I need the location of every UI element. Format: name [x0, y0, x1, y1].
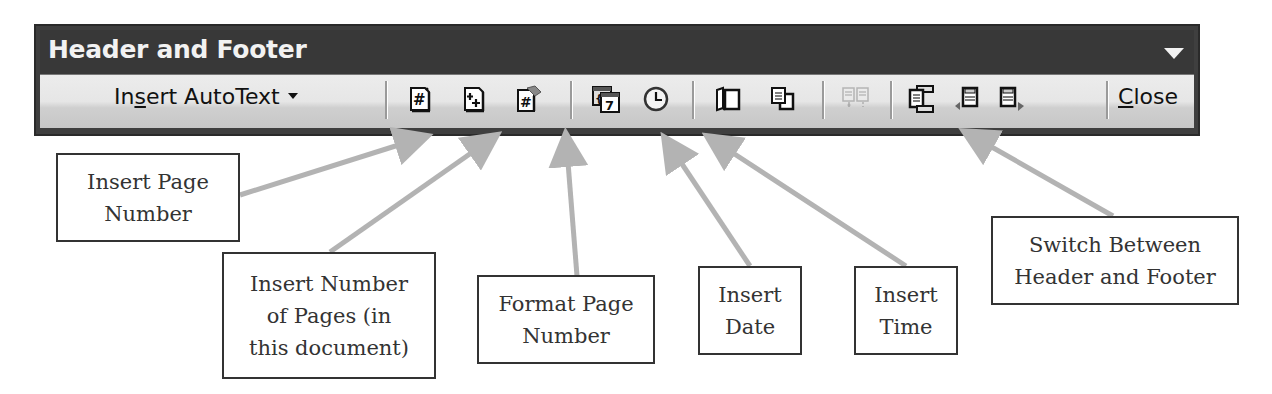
- toolbar-title: Header and Footer: [48, 35, 306, 64]
- header-footer-switch-icon: [907, 84, 937, 114]
- autotext-accelerator: s: [134, 84, 145, 109]
- show-hide-document-text-button[interactable]: [766, 83, 798, 115]
- show-next-button[interactable]: [996, 83, 1028, 115]
- close-button[interactable]: Close: [1118, 84, 1178, 109]
- previous-section-icon: [953, 84, 983, 114]
- toolbar-separator: [692, 81, 695, 119]
- callout-line: of Pages (in: [224, 300, 434, 332]
- arrow-switch-header-footer: [967, 133, 1113, 216]
- arrow-format-page-number: [566, 137, 577, 276]
- next-section-icon: [997, 84, 1027, 114]
- insert-number-of-pages-button[interactable]: [458, 83, 490, 115]
- autotext-label-prefix: In: [114, 84, 134, 109]
- clock-icon: [641, 84, 671, 114]
- arrow-insert-page-number: [240, 137, 424, 195]
- close-label-suffix: lose: [1133, 84, 1178, 109]
- document-overlap-icon: [767, 84, 797, 114]
- callout-line: Insert: [700, 279, 800, 311]
- calendar-icon: { 7: [591, 84, 621, 114]
- page-plus-icon: [459, 84, 489, 114]
- show-previous-button[interactable]: [952, 83, 984, 115]
- arrow-insert-date: [666, 140, 750, 266]
- page-hash-format-icon: #: [513, 84, 543, 114]
- callout-line: Time: [856, 311, 956, 343]
- toolbar-separator: [385, 81, 388, 119]
- callout-line: Header and Footer: [993, 261, 1237, 293]
- page-hash-icon: #: [405, 84, 435, 114]
- autotext-label-suffix: ert AutoText: [146, 84, 280, 109]
- callout-line: Insert Number: [224, 268, 434, 300]
- callout-line: this document): [224, 332, 434, 364]
- svg-text:#: #: [520, 94, 532, 110]
- callout-line: Insert: [856, 279, 956, 311]
- close-accelerator: C: [1118, 84, 1133, 109]
- link-pages-icon: [841, 84, 871, 114]
- toolbar-titlebar[interactable]: Header and Footer: [40, 30, 1194, 75]
- callout-format-page-number: Format Page Number: [477, 275, 655, 364]
- callout-insert-number-of-pages: Insert Number of Pages (in this document…: [222, 252, 436, 379]
- toolbar-options-dropdown-icon[interactable]: [1164, 48, 1184, 59]
- callout-insert-time: Insert Time: [854, 266, 958, 355]
- same-as-previous-button[interactable]: [840, 83, 872, 115]
- svg-text:#: #: [413, 91, 426, 109]
- insert-time-button[interactable]: [640, 83, 672, 115]
- arrow-insert-number-of-pages: [330, 137, 494, 252]
- insert-page-number-button[interactable]: #: [404, 83, 436, 115]
- callout-line: Number: [58, 198, 238, 230]
- header-footer-toolbar: Header and Footer Insert AutoText #: [34, 24, 1200, 136]
- callout-insert-page-number: Insert Page Number: [56, 153, 240, 242]
- toolbar-separator: [890, 81, 893, 119]
- svg-text:7: 7: [605, 98, 614, 113]
- format-page-number-button[interactable]: #: [512, 83, 544, 115]
- callout-line: Number: [479, 320, 653, 352]
- arrow-insert-time: [710, 138, 906, 266]
- callout-line: Format Page: [479, 288, 653, 320]
- switch-between-header-footer-button[interactable]: [906, 83, 938, 115]
- insert-autotext-button[interactable]: Insert AutoText: [114, 84, 298, 109]
- toolbar-button-row: Insert AutoText # #: [40, 75, 1194, 128]
- callout-line: Switch Between: [993, 229, 1237, 261]
- toolbar-separator: [1106, 81, 1109, 119]
- callout-insert-date: Insert Date: [698, 266, 802, 355]
- callout-line: Date: [700, 311, 800, 343]
- chevron-down-icon: [288, 93, 298, 99]
- toolbar-separator: [822, 81, 825, 119]
- page-setup-button[interactable]: [712, 83, 744, 115]
- callout-switch-header-footer: Switch Between Header and Footer: [991, 216, 1239, 305]
- insert-date-button[interactable]: { 7: [590, 83, 622, 115]
- toolbar-separator: [570, 81, 573, 119]
- open-book-icon: [713, 84, 743, 114]
- callout-line: Insert Page: [58, 166, 238, 198]
